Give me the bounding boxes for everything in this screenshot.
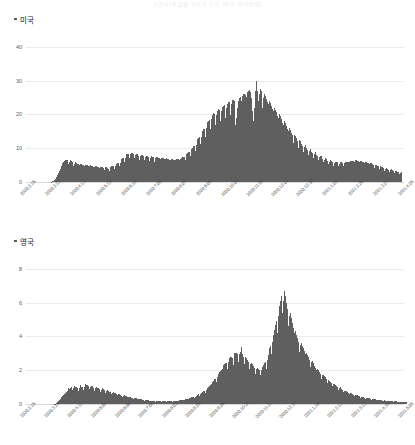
y-tick-label: 20 (16, 111, 22, 117)
y-tick-label: 2 (19, 367, 22, 373)
y-tick-label: 6 (19, 300, 22, 306)
y-tick-label: 4 (19, 333, 22, 339)
chart-usa-bars (26, 30, 404, 182)
chart-uk-legend: 영국 (14, 236, 34, 247)
chart-page: 코로나19 일별 확진자 추이 (인구 10만명당) 미국 403020100 … (0, 0, 415, 445)
chart-uk-legend-label: 영국 (20, 236, 34, 247)
page-title: 코로나19 일별 확진자 추이 (인구 10만명당) (0, 0, 415, 8)
chart-uk-bars (26, 252, 404, 404)
legend-marker-icon (14, 18, 17, 21)
y-tick-label: 10 (16, 145, 22, 151)
chart-uk-plot: 86420 (26, 252, 404, 404)
legend-marker-icon (14, 240, 17, 243)
y-tick-label: 30 (16, 78, 22, 84)
chart-usa-x-axis: 2020.2.152020.3.152020.4.132020.5.122020… (26, 186, 404, 220)
bar (401, 172, 402, 182)
chart-usa-legend: 미국 (14, 14, 34, 25)
chart-usa-plot: 403020100 (26, 30, 404, 182)
y-tick-label: 0 (19, 179, 22, 185)
chart-uk-x-axis: 2020.2.152020.3.142020.4.112020.5.092020… (26, 408, 404, 442)
chart-usa-legend-label: 미국 (20, 14, 34, 25)
y-tick-label: 40 (16, 44, 22, 50)
y-tick-label: 8 (19, 266, 22, 272)
y-tick-label: 0 (19, 401, 22, 407)
